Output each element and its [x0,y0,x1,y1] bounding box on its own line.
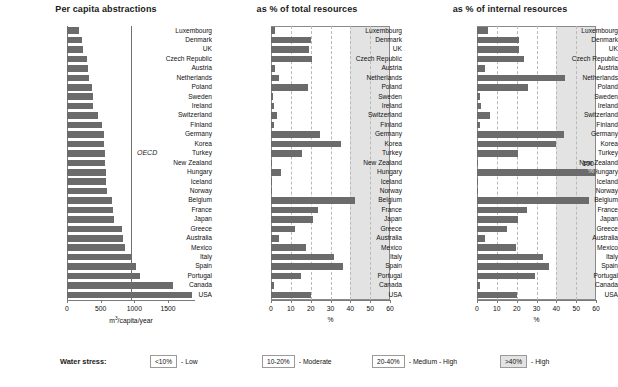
bar-spain [67,263,136,270]
x-tick [271,300,272,303]
bar-track [477,292,596,299]
bar-greece [271,226,295,233]
x-tick-label-40: 40 [347,305,355,312]
bar-row: USA [402,290,618,299]
bar-czech-republic [477,56,524,63]
bar-track [271,84,390,91]
x-tick-label-20: 20 [513,305,521,312]
legend-label-20-40: - Medium - High [409,358,457,365]
bar-track [477,65,596,72]
bar-canada [67,282,173,289]
x-tick-label-1500: 1500 [160,305,175,312]
x-tick-label-0: 0 [475,305,479,312]
hungary-over-axis-annotation: 100% [574,160,594,174]
bar-germany [477,131,564,138]
bar-iceland [477,178,478,185]
chart-panel-1: Per capita abstractionsLuxembourgDenmark… [0,0,212,345]
x-tick-label-30: 30 [327,305,335,312]
bar-track [271,56,390,63]
water-stress-legend: Water stress: <10%- Low10-20%- Moderate2… [0,352,618,376]
bar-track [477,103,596,110]
x-tick [370,300,371,303]
legend-swatch-40: >40% [500,355,527,368]
bar-spain [477,263,549,270]
bar-portugal [477,273,535,280]
bar-korea [67,141,104,148]
x-tick [101,300,102,303]
bar-norway [271,188,272,195]
bar-ireland [271,103,274,110]
bar-usa [271,292,311,299]
bar-germany [67,131,104,138]
x-tick [134,300,135,303]
bar-poland [477,84,528,91]
legend-item-20-40: 20-40%- Medium - High [372,355,457,368]
bar-ireland [477,103,481,110]
bar-finland [67,122,102,129]
bar-netherlands [67,75,89,82]
chart-title-3: as % of internal resources [402,4,618,14]
legend-swatch-10: <10% [150,355,177,368]
bar-canada [271,282,274,289]
x-tick [168,300,169,303]
chart-panel-2: as % of total resourcesLuxembourgDenmark… [212,0,402,345]
bar-germany [271,131,320,138]
bar-track [477,75,596,82]
legend-label-10-20: - Moderate [299,358,332,365]
legend-swatch-10-20: 10-20% [262,355,295,368]
bar-track [271,160,390,167]
x-tick-label-0: 0 [269,305,273,312]
x-tick-label-20: 20 [307,305,315,312]
bar-australia [67,235,123,242]
x-tick [390,300,391,303]
x-tick-label-50: 50 [366,305,374,312]
bar-track [477,112,596,119]
bar-track [271,93,390,100]
bar-japan [477,216,518,223]
bar-track [271,131,390,138]
x-tick [517,300,518,303]
bar-netherlands [477,75,565,82]
bar-track [271,235,390,242]
x-tick [331,300,332,303]
bar-track [271,197,390,204]
bar-track [271,65,390,72]
bar-track [477,122,596,129]
bar-track [477,93,596,100]
bar-luxembourg [67,27,79,34]
hungary-100-unit: % [574,167,594,174]
bar-track [477,46,596,53]
bar-italy [67,254,132,261]
bar-track [271,226,390,233]
bar-track [271,188,390,195]
bar-track [477,84,596,91]
bar-japan [67,216,114,223]
bar-track [477,263,596,270]
bar-italy [271,254,334,261]
bar-track [271,273,390,280]
legend-swatch-20-40: 20-40% [372,355,405,368]
bar-mexico [271,244,306,251]
bar-poland [271,84,308,91]
bar-new-zealand [67,160,105,167]
bar-track [271,46,390,53]
bar-portugal [67,273,140,280]
bar-usa [67,292,192,299]
oecd-reference-line [131,26,132,300]
bar-track [477,56,596,63]
bar-track [271,112,390,119]
x-tick [556,300,557,303]
bar-track [477,207,596,214]
bar-switzerland [271,112,277,119]
bar-track [271,216,390,223]
legend-item-10: <10%- Low [150,355,198,368]
legend-label-10: - Low [181,358,198,365]
bar-belgium [477,197,589,204]
x-axis-title-1: m3/capita/year [109,316,152,324]
bar-sweden [67,93,93,100]
bar-track [271,282,390,289]
x-tick-label-1000: 1000 [127,305,142,312]
bar-czech-republic [271,56,312,63]
bar-uk [271,46,309,53]
bar-uk [477,46,519,53]
